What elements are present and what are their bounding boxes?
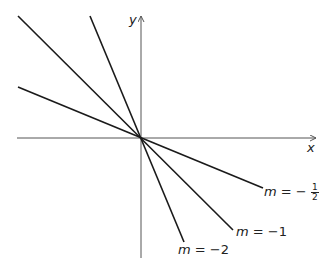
fraction-denominator: 2: [311, 193, 319, 202]
label-var: m: [264, 184, 277, 199]
label-var: m: [178, 242, 191, 257]
line-slope-2: [90, 16, 184, 242]
x-axis-label: x: [307, 141, 315, 154]
label-slope-neg-half: m = − 1 2: [264, 183, 319, 202]
label-slope-neg-two: m = −2: [178, 243, 229, 256]
label-eq: = −1: [253, 224, 287, 239]
label-var: m: [236, 224, 249, 239]
y-axis-label: y: [129, 13, 137, 26]
label-slope-neg-one: m = −1: [236, 225, 287, 238]
fraction: 1 2: [311, 183, 319, 202]
slope-diagram: x y m = − 1 2 m = −1 m = −2: [0, 0, 331, 268]
label-eq: = −: [281, 184, 307, 199]
line-slope-1: [18, 16, 233, 230]
label-eq: = −2: [195, 242, 229, 257]
